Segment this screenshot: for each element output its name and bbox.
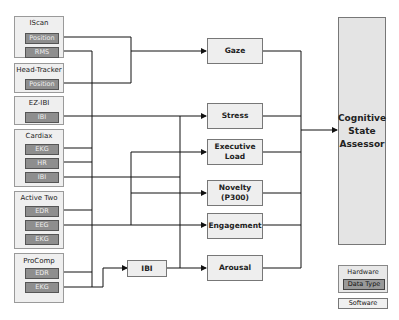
data-type-position: Position bbox=[25, 33, 59, 44]
hardware-cardiax: Cardiax EKG HR IBI bbox=[14, 129, 64, 187]
software-novelty: Novelty (P300) bbox=[207, 180, 263, 206]
data-type-position: Position bbox=[25, 79, 59, 90]
hardware-label: IScan bbox=[15, 19, 63, 27]
software-arousal: Arousal bbox=[207, 255, 263, 281]
data-type-ibi: IBI bbox=[25, 172, 59, 183]
software-ibi: IBI bbox=[127, 260, 167, 277]
hardware-label: ProComp bbox=[15, 257, 63, 265]
data-type-ekg: EKG bbox=[25, 282, 59, 293]
cognitive-state-assessor: Cognitive State Assessor bbox=[338, 17, 386, 245]
hardware-active-two: Active Two EDR EEG EKG bbox=[14, 191, 64, 249]
software-stress: Stress bbox=[207, 103, 263, 129]
hardware-label: Active Two bbox=[15, 194, 63, 202]
data-type-ekg: EKG bbox=[25, 234, 59, 245]
data-type-eeg: EEG bbox=[25, 220, 59, 231]
software-engagement: Engagement bbox=[207, 213, 263, 239]
hardware-label: EZ-IBI bbox=[15, 99, 63, 107]
data-type-hr: HR bbox=[25, 158, 59, 169]
legend-hardware: Hardware Data Type bbox=[338, 265, 388, 293]
legend-data-type: Data Type bbox=[343, 279, 385, 290]
software-gaze: Gaze bbox=[207, 38, 263, 64]
data-type-ibi: IBI bbox=[25, 112, 59, 123]
hardware-head-tracker: Head-Tracker Position bbox=[14, 63, 64, 93]
hardware-ez-ibi: EZ-IBI IBI bbox=[14, 96, 64, 125]
hardware-label: Cardiax bbox=[15, 132, 63, 140]
data-type-ekg: EKG bbox=[25, 144, 59, 155]
data-type-rms: RMS bbox=[25, 47, 59, 58]
data-type-edr: EDR bbox=[25, 206, 59, 217]
legend-hardware-label: Hardware bbox=[339, 268, 387, 276]
hardware-procomp: ProComp EDR EKG bbox=[14, 253, 64, 303]
software-executive-load: Executive Load bbox=[207, 139, 263, 165]
hardware-label: Head-Tracker bbox=[15, 66, 63, 74]
legend-software: Software bbox=[338, 298, 388, 309]
data-type-edr: EDR bbox=[25, 268, 59, 279]
hardware-iscan: IScan Position RMS bbox=[14, 16, 64, 58]
